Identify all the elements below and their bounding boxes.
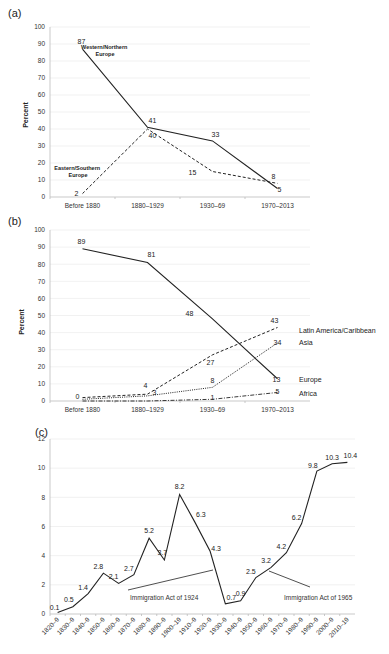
y-tick-label: 30 <box>38 346 46 353</box>
data-label: 0 <box>76 393 80 400</box>
panel-c: (c) 024681012 1820–91830–91840–91850–918… <box>35 426 357 639</box>
y-tick-label: 40 <box>38 125 46 132</box>
panel-b-lines <box>83 249 278 401</box>
data-label: 89 <box>78 238 86 245</box>
series-line <box>83 249 278 379</box>
y-tick-label: 0 <box>41 397 45 404</box>
panel-c-y-axis: 024681012 <box>38 435 50 617</box>
y-tick-label: 20 <box>38 159 46 166</box>
data-label: 6.2 <box>292 514 302 521</box>
data-label: 33 <box>212 131 220 138</box>
data-label: 2.7 <box>124 565 134 572</box>
data-label: 4.2 <box>277 543 287 550</box>
panel-b-y-axis-title: Percent <box>18 308 25 334</box>
series-line <box>58 462 348 612</box>
y-tick-label: 50 <box>38 108 46 115</box>
x-tick-label: 1970–2013 <box>261 202 294 209</box>
data-label: 5 <box>278 186 282 193</box>
data-label: 81 <box>148 251 156 258</box>
data-label: 0.9 <box>236 590 246 597</box>
y-tick-label: 80 <box>38 57 46 64</box>
panel-b-legend: EuropeLatin America/CaribbeanAsiaAfrica <box>299 327 376 398</box>
data-label: 0.5 <box>64 596 74 603</box>
data-label: 2.1 <box>109 573 119 580</box>
annotation-arrow-1924 <box>128 570 213 590</box>
data-label: 1.4 <box>78 584 88 591</box>
panel-b: (b) 0102030405060708090100 Before 188018… <box>8 215 376 413</box>
panel-a-y-axis-title: Percent <box>22 101 29 127</box>
annotation-immigration-act-1965: Immigration Act of 1965 <box>284 594 353 602</box>
legend-label: Europe <box>299 376 322 384</box>
data-label: 40 <box>149 132 157 139</box>
panel-label-b: (b) <box>8 215 21 227</box>
y-tick-label: 100 <box>34 226 45 233</box>
data-label: 5 <box>276 388 280 395</box>
legend-label: Latin America/Caribbean <box>299 327 376 334</box>
y-tick-label: 50 <box>38 312 46 319</box>
data-label: 6.3 <box>196 511 206 518</box>
y-tick-label: 8 <box>41 494 45 501</box>
y-tick-label: 40 <box>38 329 46 336</box>
panel-b-gridlines <box>50 230 310 384</box>
y-tick-label: 6 <box>41 523 45 530</box>
figure: (a) 0102030405060708090100 Before 188018… <box>0 0 389 654</box>
data-label: 8 <box>211 377 215 384</box>
x-tick-label: Before 1880 <box>65 202 101 209</box>
data-label: 3.2 <box>261 557 271 564</box>
data-label: 2 <box>75 190 79 197</box>
data-label: 1 <box>211 394 215 401</box>
data-label: 2.5 <box>246 568 256 575</box>
y-tick-label: 90 <box>38 243 46 250</box>
legend-label: Asia <box>299 339 313 346</box>
y-tick-label: 80 <box>38 261 46 268</box>
y-tick-label: 10 <box>38 176 46 183</box>
x-tick-label: 1930–69 <box>200 406 226 413</box>
series-line <box>83 392 278 401</box>
x-tick-label: 1970–2013 <box>261 406 294 413</box>
data-label: 13 <box>273 376 281 383</box>
x-tick-label: Before 1880 <box>65 406 101 413</box>
data-label: 10.4 <box>344 452 358 459</box>
panel-a-y-axis: 0102030405060708090100 <box>34 23 50 200</box>
data-label: 3.7 <box>158 549 168 556</box>
panel-c-annotations: Immigration Act of 1924Immigration Act o… <box>128 570 353 602</box>
data-label: 4.3 <box>211 545 221 552</box>
y-tick-label: 0 <box>41 193 45 200</box>
annotation-eastern-southern-europe: Eastern/Southern Europe <box>54 165 101 178</box>
y-tick-label: 20 <box>38 363 46 370</box>
x-tick-label: 1880–1929 <box>131 202 164 209</box>
y-tick-label: 10 <box>38 464 46 471</box>
y-tick-label: 10 <box>38 380 46 387</box>
y-tick-label: 70 <box>38 74 46 81</box>
y-tick-label: 30 <box>38 142 46 149</box>
panel-c-data-labels: 0.10.51.42.82.12.75.23.78.26.34.30.70.92… <box>50 452 358 610</box>
data-label: 34 <box>274 339 282 346</box>
y-tick-label: 2 <box>41 581 45 588</box>
y-tick-label: 60 <box>38 295 46 302</box>
x-tick-label: 1880–1929 <box>131 406 164 413</box>
data-label: 27 <box>207 359 215 366</box>
panel-label-a: (a) <box>8 7 21 19</box>
data-label: 9.8 <box>308 462 318 469</box>
panel-a-data-labels: 8741335240158 <box>75 38 282 197</box>
panel-b-y-axis: 0102030405060708090100 <box>34 226 50 404</box>
y-tick-label: 70 <box>38 278 46 285</box>
data-label: 15 <box>189 169 197 176</box>
y-tick-label: 100 <box>34 23 45 30</box>
data-label: 43 <box>271 317 279 324</box>
y-tick-label: 12 <box>38 435 46 442</box>
data-label: 8.2 <box>175 483 185 490</box>
panel-b-x-axis: Before 18801880–19291930–691970–2013 <box>50 401 310 413</box>
y-tick-label: 4 <box>41 552 45 559</box>
data-label: 8 <box>272 173 276 180</box>
y-tick-label: 60 <box>38 91 46 98</box>
series-line <box>83 49 278 188</box>
y-tick-label: 90 <box>38 40 46 47</box>
panel-b-data-labels: 89814813427430383415 <box>76 238 282 401</box>
x-tick-label: 1930–69 <box>200 202 226 209</box>
y-tick-label: 0 <box>41 610 45 617</box>
data-label: 3 <box>153 389 157 396</box>
panel-a-lines <box>83 49 278 194</box>
panel-c-x-axis: 1820–91830–91840–91850–91860–91870–91880… <box>40 614 355 639</box>
annotation-immigration-act-1924: Immigration Act of 1924 <box>130 594 199 602</box>
